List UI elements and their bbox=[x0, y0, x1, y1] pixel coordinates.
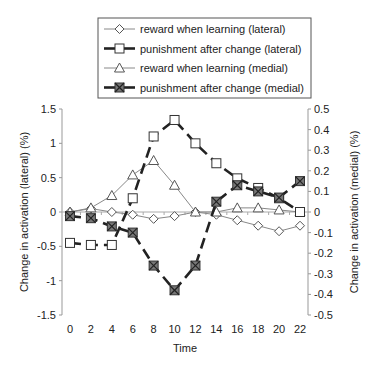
x-tick-label: 18 bbox=[252, 323, 264, 335]
y-tick-label-right: 0.1 bbox=[314, 185, 329, 197]
y-tick-label-right: -0.1 bbox=[314, 227, 333, 239]
data-point bbox=[296, 208, 305, 217]
y-tick-label-right: -0.2 bbox=[314, 247, 333, 259]
legend: reward when learning (lateral)punishment… bbox=[98, 18, 311, 98]
series-group bbox=[65, 115, 305, 294]
data-point bbox=[275, 227, 284, 236]
chart: reward when learning (lateral)punishment… bbox=[0, 0, 375, 369]
legend-marker bbox=[115, 83, 124, 92]
y-tick-label-right: -0.4 bbox=[314, 288, 333, 300]
x-tick-label: 14 bbox=[210, 323, 222, 335]
series-2 bbox=[65, 156, 305, 217]
data-point bbox=[191, 261, 200, 270]
x-tick-label: 20 bbox=[273, 323, 285, 335]
data-point bbox=[233, 216, 242, 225]
series-3 bbox=[66, 177, 305, 295]
y-tick-label-left: -0.5 bbox=[37, 240, 56, 252]
y-tick-label-right: 0.5 bbox=[314, 103, 329, 115]
y-axis-label-right: Change in activation (medial) (%) bbox=[348, 131, 360, 294]
data-point bbox=[170, 212, 179, 221]
data-point bbox=[86, 240, 95, 249]
y-tick-label-left: 1.5 bbox=[41, 103, 56, 115]
legend-marker bbox=[115, 44, 124, 53]
data-point bbox=[128, 228, 137, 237]
data-point bbox=[254, 187, 263, 196]
y-tick-label-left: -1 bbox=[46, 275, 56, 287]
data-point bbox=[66, 238, 75, 247]
y-tick-label-left: 1 bbox=[50, 137, 56, 149]
data-point bbox=[170, 115, 179, 124]
legend-label: reward when learning (medial) bbox=[140, 62, 288, 74]
data-point bbox=[233, 181, 242, 190]
x-tick-label: 8 bbox=[151, 323, 157, 335]
data-point bbox=[191, 139, 200, 148]
data-point bbox=[86, 214, 95, 223]
data-point bbox=[254, 221, 263, 230]
data-point bbox=[296, 177, 305, 186]
y-tick-label-right: 0.4 bbox=[314, 124, 329, 136]
data-point bbox=[107, 208, 116, 217]
data-point bbox=[128, 170, 138, 179]
data-point bbox=[149, 132, 158, 141]
y-axis-label-left: Change in activation (lateral) (%) bbox=[18, 132, 30, 292]
x-tick-label: 6 bbox=[130, 323, 136, 335]
legend-label: punishment after change (lateral) bbox=[140, 43, 301, 55]
y-tick-label-right: 0 bbox=[314, 206, 320, 218]
legend-label: punishment after change (medial) bbox=[140, 82, 304, 94]
x-tick-label: 0 bbox=[67, 323, 73, 335]
data-point bbox=[149, 214, 158, 223]
data-point bbox=[107, 222, 116, 231]
data-point bbox=[107, 240, 116, 249]
data-point bbox=[275, 193, 284, 202]
data-point bbox=[149, 261, 158, 270]
series-1 bbox=[66, 115, 305, 249]
legend-label: reward when learning (lateral) bbox=[140, 23, 286, 35]
x-axis-label: Time bbox=[173, 342, 197, 354]
data-point bbox=[296, 221, 305, 230]
data-point bbox=[212, 159, 221, 168]
x-tick-label: 10 bbox=[168, 323, 180, 335]
x-tick-label: 4 bbox=[109, 323, 115, 335]
data-point bbox=[170, 286, 179, 295]
y-tick-label-left: 0.5 bbox=[41, 172, 56, 184]
series-line bbox=[70, 161, 300, 213]
series-line bbox=[70, 120, 300, 245]
y-tick-label-right: 0.3 bbox=[314, 144, 329, 156]
data-point bbox=[149, 156, 159, 165]
x-tick-label: 12 bbox=[189, 323, 201, 335]
y-tick-label-right: -0.5 bbox=[314, 309, 333, 321]
series-line bbox=[70, 181, 300, 290]
data-point bbox=[212, 197, 221, 206]
x-tick-label: 22 bbox=[294, 323, 306, 335]
x-tick-label: 2 bbox=[88, 323, 94, 335]
y-tick-label-right: -0.3 bbox=[314, 268, 333, 280]
data-point bbox=[66, 212, 75, 221]
y-tick-label-left: -1.5 bbox=[37, 309, 56, 321]
axes: 1.510.50-0.5-1-1.50.50.40.30.20.10-0.1-0… bbox=[37, 103, 333, 335]
x-tick-label: 16 bbox=[231, 323, 243, 335]
data-point bbox=[128, 194, 137, 203]
y-tick-label-right: 0.2 bbox=[314, 165, 329, 177]
y-tick-label-left: 0 bbox=[50, 206, 56, 218]
